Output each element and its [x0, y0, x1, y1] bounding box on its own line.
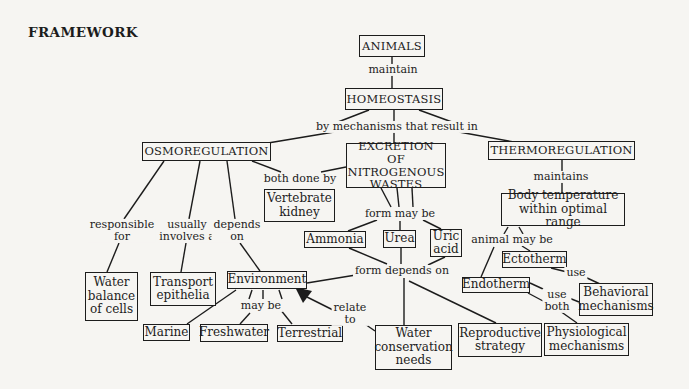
page-title: FRAMEWORK: [28, 24, 138, 40]
node-homeostasis: HOMEOSTASIS: [345, 88, 443, 110]
node-vertebrate-kidney: Vertebrate kidney: [264, 189, 335, 222]
node-uric-acid: Uric acid: [430, 229, 462, 257]
node-urea: Urea: [383, 230, 416, 248]
node-ammonia: Ammonia: [304, 231, 366, 248]
node-reproductive-strategy: Reproductive strategy: [458, 323, 542, 357]
link-maintain: maintain: [366, 64, 419, 76]
node-thermoregulation: THERMOREGULATION: [488, 141, 635, 160]
node-endotherm: Endotherm: [462, 277, 530, 293]
link-form-depends-on: form depends on: [353, 265, 451, 277]
link-may-be: may be: [239, 300, 283, 312]
node-physiological-mechanisms: Physiological mechanisms: [544, 323, 629, 356]
link-depends-on: depends on: [212, 219, 263, 243]
node-water-conservation-needs: Water conservation needs: [375, 325, 452, 370]
link-responsible-for: responsible for: [88, 219, 156, 243]
node-environment: Environment: [227, 271, 307, 289]
link-form-may-be: form may be: [363, 208, 437, 220]
node-behavioral-mechanisms: Behavioral mechanisms: [579, 283, 653, 316]
node-freshwater: Freshwater: [200, 324, 268, 342]
link-animal-may-be: animal may be: [469, 234, 554, 246]
link-use-both: use both: [542, 289, 571, 313]
node-body-temperature: Body temperature within optimal range: [501, 193, 625, 226]
node-excretion-of-nitrogenous-wastes: EXCRETION OF NITROGENOUS WASTES: [346, 143, 446, 188]
link-both-done-by: both done by: [262, 173, 339, 185]
link-relate-to: relate to: [332, 302, 369, 326]
relate-arrowhead-icon: [295, 287, 312, 303]
link-maintains: maintains: [532, 171, 591, 183]
node-animals: ANIMALS: [359, 35, 425, 57]
link-usually-involves-a: usually involves a: [157, 219, 216, 243]
node-marine: Marine: [143, 324, 190, 341]
node-transport-epithelia: Transport epithelia: [150, 272, 216, 306]
node-osmoregulation: OSMOREGULATION: [142, 142, 271, 161]
node-ectotherm: Ectotherm: [502, 251, 567, 268]
node-water-balance-of-cells: Water balance of cells: [85, 272, 138, 321]
node-terrestrial: Terrestrial: [277, 325, 343, 342]
link-use: use: [564, 267, 587, 279]
link-by-mechanisms: by mechanisms that result in: [314, 121, 480, 133]
concept-map: FRAMEWORK ANIMALS HOMEOSTASIS OSMOREGULA…: [0, 0, 689, 389]
